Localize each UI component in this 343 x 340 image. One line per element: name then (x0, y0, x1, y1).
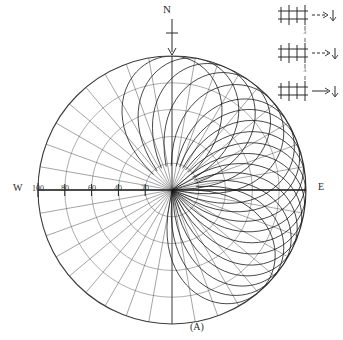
label-east: E (318, 182, 324, 192)
array-element-ladder-icon (276, 4, 342, 26)
figure-caption: (A) (190, 322, 204, 332)
legend-separator-0: λ (290, 26, 320, 42)
legend-item-0 (276, 4, 342, 26)
radial-tick-100: 100 (32, 184, 44, 193)
label-west: W (13, 183, 22, 193)
legend: λ λ (276, 4, 342, 104)
radial-tick-40: 40 (114, 184, 122, 193)
lobe-4 (171, 85, 284, 194)
radial-tick-60: 60 (88, 184, 96, 193)
array-element-ladder-icon (276, 42, 342, 64)
radial-tick-80: 80 (61, 184, 69, 193)
lobe-15 (167, 190, 275, 304)
legend-separator-label-1: λ (303, 66, 306, 74)
label-north: N (163, 4, 171, 15)
lobe-6 (172, 109, 300, 211)
figure-polar-radiation-pattern: 100 80 60 40 20 N W E (A) (0, 0, 343, 340)
legend-item-1 (276, 42, 342, 64)
radial-tick-20: 20 (141, 184, 149, 193)
legend-item-2 (276, 80, 342, 102)
array-element-ladder-icon (276, 80, 342, 102)
north-arrow-icon (166, 19, 178, 55)
lobe-3 (164, 73, 271, 190)
legend-separator-label-0: λ (303, 28, 306, 36)
lobe-5 (172, 99, 294, 203)
legend-separator-1: λ (290, 64, 320, 80)
